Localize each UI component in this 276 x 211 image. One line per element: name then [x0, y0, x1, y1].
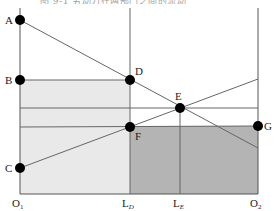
- point-d: [125, 75, 135, 85]
- labor-market-diagram: A B C D E F G O1 LD LE O2: [0, 0, 276, 211]
- label-ld: LD: [122, 197, 134, 211]
- point-b: [15, 75, 25, 85]
- label-o1: O1: [12, 197, 24, 211]
- label-e: E: [175, 90, 182, 102]
- label-o2: O2: [250, 197, 262, 211]
- point-c: [15, 163, 25, 173]
- label-c: C: [5, 162, 12, 174]
- label-b: B: [5, 74, 12, 86]
- label-g: G: [264, 120, 272, 132]
- light-shaded-region: [20, 80, 130, 194]
- point-g: [253, 121, 263, 131]
- label-a: A: [5, 14, 13, 26]
- point-a: [15, 15, 25, 25]
- dark-shaded-region: [130, 126, 258, 194]
- label-le: LE: [173, 197, 185, 211]
- label-f: F: [135, 130, 141, 142]
- label-d: D: [135, 65, 143, 77]
- point-f: [125, 122, 135, 132]
- point-e: [175, 103, 185, 113]
